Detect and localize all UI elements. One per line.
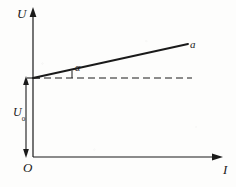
x-axis-arrowhead-icon <box>212 153 223 160</box>
y-axis-arrowhead-icon <box>30 7 37 17</box>
y-axis-label: U <box>17 7 26 20</box>
intercept-symbol: U <box>13 105 22 119</box>
graph-canvas <box>0 0 236 187</box>
intercept-subscript: 0 <box>22 115 26 123</box>
physics-graph-figure: U I O a α U0 <box>0 0 236 187</box>
x-axis-label: I <box>223 163 227 176</box>
intercept-label: U0 <box>13 106 25 121</box>
intercept-arrowhead-down-icon <box>23 149 29 158</box>
intercept-arrowhead-up-icon <box>23 76 29 85</box>
origin-label: O <box>23 161 32 174</box>
x-axis <box>33 153 223 160</box>
data-line-label: a <box>190 39 196 50</box>
y-axis <box>30 7 37 157</box>
data-line-a <box>33 44 188 78</box>
angle-label: α <box>75 63 80 73</box>
